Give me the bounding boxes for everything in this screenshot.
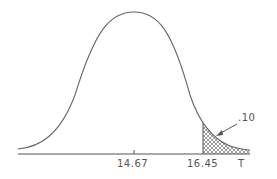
- axis-label: T: [238, 158, 245, 169]
- critical-value-label: 16.45: [187, 158, 218, 169]
- normal-curve-chart: [0, 0, 277, 179]
- mean-label: 14.67: [117, 158, 148, 169]
- arrow-head-icon: [216, 130, 223, 136]
- distribution-curve: [18, 12, 250, 150]
- tail-area-label: .10: [238, 112, 255, 123]
